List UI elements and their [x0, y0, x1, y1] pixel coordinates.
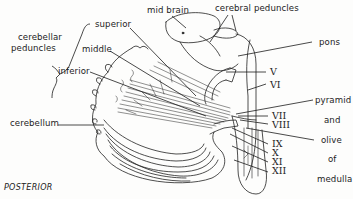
medulla-outline	[232, 116, 267, 194]
label-superior-peduncle: superior	[95, 20, 131, 29]
label-mid-brain: mid brain	[147, 6, 189, 15]
label-cerebellar-peduncles-line1: cerebellar	[18, 33, 62, 42]
label-nerve-xii: XII	[272, 166, 286, 176]
label-inferior-peduncle: inferior	[58, 67, 90, 76]
nerve-v-root	[205, 68, 236, 104]
label-nerve-v: V	[270, 67, 277, 77]
label-pons: pons	[319, 38, 340, 47]
label-olive: olive	[321, 136, 342, 145]
label-middle-peduncle: middle	[82, 45, 112, 54]
anatomy-figure: cerebellar peduncles superior middle inf…	[0, 0, 353, 199]
orientation-label: POSTERIOR	[4, 183, 53, 192]
brainstem-cerebellum-drawing	[0, 0, 353, 199]
label-cerebellar-peduncles-line2: peduncles	[11, 44, 56, 53]
label-pyramid: pyramid	[315, 96, 351, 105]
label-nerve-viii: VIII	[272, 120, 290, 130]
label-medulla: medulla	[317, 175, 352, 184]
label-of: of	[328, 155, 336, 164]
label-cerebellum: cerebellum	[10, 119, 59, 128]
label-nerve-vi: VI	[270, 80, 281, 90]
label-cerebral-peduncles: cerebral peduncles	[215, 4, 299, 13]
label-and: and	[324, 116, 340, 125]
